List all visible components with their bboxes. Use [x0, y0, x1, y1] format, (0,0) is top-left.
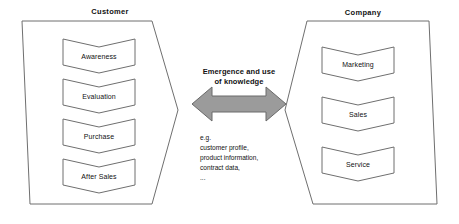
diagram-root: Awareness Evaluation Purchase After Sale… [0, 0, 459, 224]
arrow-label-line2: of knowledge [214, 77, 263, 86]
customer-stage-after-sales[interactable]: After Sales [63, 159, 135, 193]
double-arrow-icon [192, 87, 286, 121]
examples-block: e.g. customer profile, product informati… [200, 134, 258, 181]
arrow-label-line1: Emergence and use [203, 67, 276, 76]
diagram-canvas: Awareness Evaluation Purchase After Sale… [0, 0, 459, 224]
stage-label: Evaluation [82, 93, 116, 100]
company-stage-sales[interactable]: Sales [322, 97, 394, 131]
customer-stage-evaluation[interactable]: Evaluation [63, 79, 135, 113]
stage-label: After Sales [81, 173, 117, 180]
example-line-4: ... [200, 174, 206, 181]
customer-stage-awareness[interactable]: Awareness [63, 39, 135, 73]
example-line-3: contract data, [200, 164, 240, 171]
example-line-2: product information, [200, 154, 258, 162]
company-stage-marketing[interactable]: Marketing [322, 47, 394, 81]
company-stage-service[interactable]: Service [322, 147, 394, 181]
stage-label: Awareness [81, 53, 117, 60]
stage-label: Marketing [342, 61, 374, 69]
customer-stage-purchase[interactable]: Purchase [63, 119, 135, 153]
company-group[interactable]: Marketing Sales Service Company [285, 8, 437, 204]
example-line-1: customer profile, [200, 144, 249, 152]
customer-group[interactable]: Awareness Evaluation Purchase After Sale… [22, 7, 178, 204]
company-title: Company [345, 8, 382, 17]
stage-label: Purchase [84, 133, 114, 140]
knowledge-exchange-group[interactable]: Emergence and use of knowledge [192, 67, 286, 121]
stage-label: Sales [349, 111, 367, 118]
customer-title: Customer [91, 7, 128, 16]
stage-label: Service [346, 161, 370, 168]
example-line-0: e.g. [200, 134, 211, 142]
